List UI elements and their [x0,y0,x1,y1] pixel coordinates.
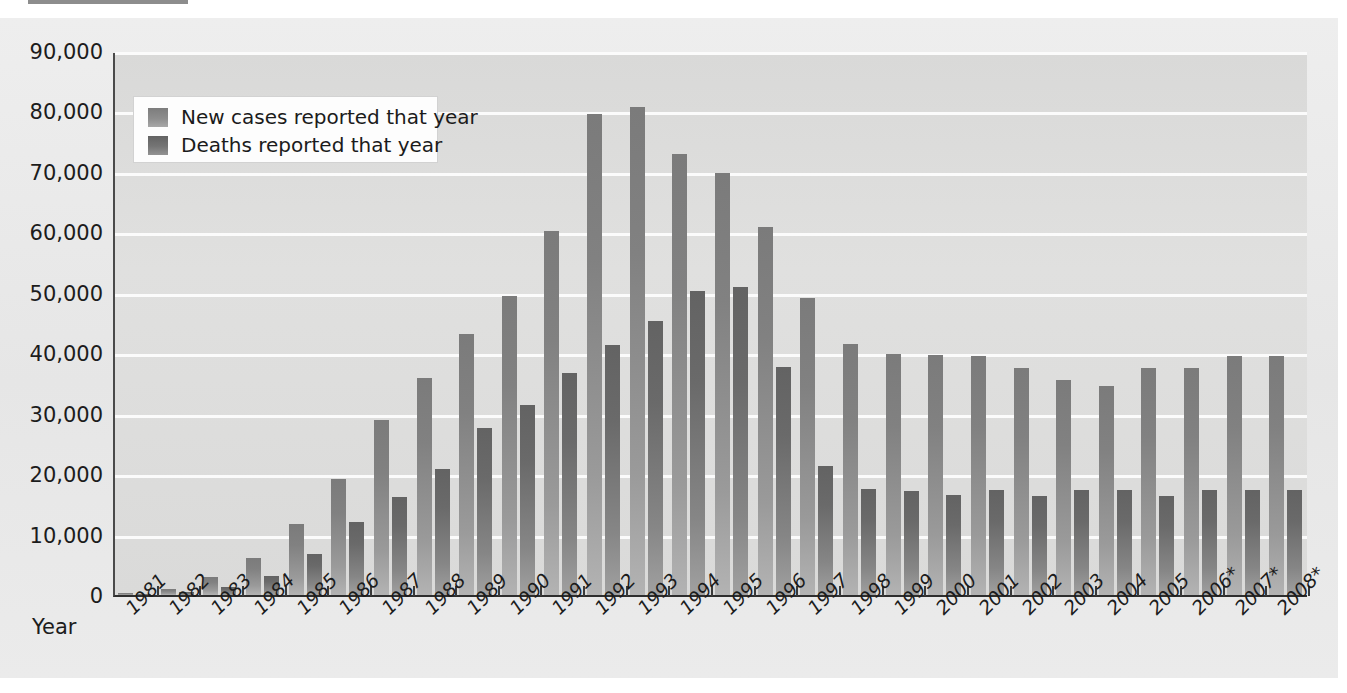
bar-new-cases [459,334,474,595]
y-axis-tick-label: 90,000 [3,42,103,63]
y-axis-tick-label: 60,000 [3,223,103,244]
bar-deaths [562,373,577,595]
bar-group [1138,53,1181,595]
bar-group [712,53,755,595]
bar-group [584,53,627,595]
bar-new-cases [715,173,730,595]
y-axis-tick-label: 80,000 [3,102,103,123]
bar-group [1011,53,1054,595]
bar-group [755,53,798,595]
legend-item-cases: New cases reported that year [148,104,437,130]
legend-swatch-deaths-icon [148,136,168,155]
chart-figure: 010,00020,00030,00040,00050,00060,00070,… [0,18,1338,678]
y-axis-tick-label: 50,000 [3,284,103,305]
bar-new-cases [672,154,687,595]
bar-deaths [733,287,748,595]
bar-deaths [776,367,791,595]
x-axis: 1981198219831984198519861987198819891990… [113,599,1333,679]
bar-group [1266,53,1309,595]
bar-new-cases [800,298,815,595]
bar-deaths [520,405,535,595]
y-axis-tick-label: 40,000 [3,344,103,365]
bar-new-cases [758,227,773,595]
bar-group [669,53,712,595]
bar-new-cases [502,296,517,595]
bar-new-cases [1014,368,1029,595]
legend-label-cases: New cases reported that year [181,105,478,129]
bar-group [627,53,670,595]
y-axis-tick-label: 10,000 [3,526,103,547]
bar-group [1053,53,1096,595]
bar-group [499,53,542,595]
bar-group [456,53,499,595]
bar-group [1181,53,1224,595]
legend: New cases reported that year Deaths repo… [133,96,438,163]
bar-new-cases [1056,380,1071,595]
bar-deaths [648,321,663,595]
bar-deaths [477,428,492,595]
bar-new-cases [1269,356,1284,595]
bar-new-cases [417,378,432,595]
bar-group [840,53,883,595]
title-strip: The Rise of AIDS in the United States [0,0,1347,6]
y-axis: 010,00020,00030,00040,00050,00060,00070,… [0,53,103,597]
y-axis-tick-label: 20,000 [3,465,103,486]
bar-new-cases [1184,368,1199,595]
bar-group [797,53,840,595]
bar-new-cases [928,355,943,595]
bar-new-cases [1099,386,1114,595]
bar-group [925,53,968,595]
y-axis-tick-label: 70,000 [3,163,103,184]
bar-group [1096,53,1139,595]
bar-group [1224,53,1267,595]
legend-item-deaths: Deaths reported that year [148,132,437,158]
y-axis-tick-label: 0 [3,586,103,607]
bar-new-cases [544,231,559,595]
legend-swatch-cases-icon [148,108,168,127]
bar-new-cases [630,107,645,595]
bar-group [883,53,926,595]
bar-new-cases [374,420,389,595]
bar-group [541,53,584,595]
bar-new-cases [843,344,858,595]
figure-page: The Rise of AIDS in the United States 01… [0,0,1347,693]
title-rule [28,0,188,4]
bar-new-cases [1141,368,1156,595]
bar-new-cases [971,356,986,595]
bar-deaths [605,345,620,595]
bar-new-cases [587,114,602,595]
y-axis-tick-label: 30,000 [3,405,103,426]
legend-label-deaths: Deaths reported that year [181,133,442,157]
bar-new-cases [886,354,901,595]
bar-deaths [690,291,705,595]
x-axis-title: Year [32,615,76,639]
bar-new-cases [1227,356,1242,595]
page-title: The Rise of AIDS in the United States [205,0,692,4]
bar-group [968,53,1011,595]
